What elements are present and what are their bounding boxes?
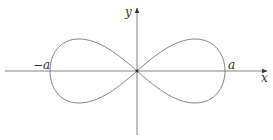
origin-point bbox=[136, 70, 139, 73]
pos-a-label: a bbox=[228, 58, 235, 72]
neg-a-label: −a bbox=[33, 58, 50, 72]
lemniscate-diagram: y x −a a bbox=[0, 0, 273, 140]
y-axis-label: y bbox=[124, 5, 132, 19]
x-axis-label: x bbox=[261, 71, 268, 85]
